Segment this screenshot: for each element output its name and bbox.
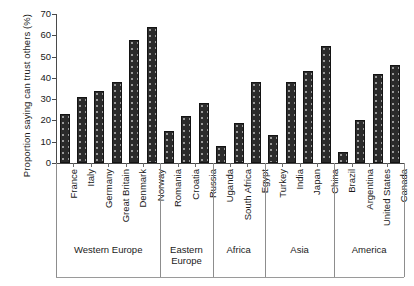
x-category-label: Great Britain — [121, 169, 131, 222]
x-tick-mark — [91, 163, 92, 167]
x-tick-mark — [126, 163, 127, 167]
group-separator — [404, 163, 405, 277]
x-category-label: Denmark — [138, 169, 148, 208]
x-tick-mark — [387, 163, 388, 167]
group-label: Africa — [213, 244, 265, 255]
group-label: Eastern Europe — [160, 244, 212, 266]
group-separator — [56, 163, 57, 277]
group-baseline — [56, 277, 404, 278]
group-separator — [265, 163, 266, 277]
x-category-label: United States — [382, 169, 392, 226]
x-tick-mark — [317, 163, 318, 167]
x-tick-mark — [247, 163, 248, 167]
x-category-label: Turkey — [278, 169, 288, 198]
x-tick-mark — [300, 163, 301, 167]
x-category-label: France — [69, 169, 79, 199]
x-tick-mark — [73, 163, 74, 167]
group-label: America — [334, 244, 404, 255]
x-tick-mark — [282, 163, 283, 167]
group-separator — [334, 163, 335, 277]
x-tick-mark — [108, 163, 109, 167]
x-tick-mark — [369, 163, 370, 167]
x-tick-mark — [230, 163, 231, 167]
x-category-label: Japan — [312, 169, 322, 195]
x-category-label: Germany — [104, 169, 114, 208]
x-category-label: Brazil — [347, 169, 357, 193]
x-category-label: India — [295, 169, 305, 190]
group-label: Asia — [265, 244, 335, 255]
x-tick-mark — [143, 163, 144, 167]
x-category-label: Uganda — [225, 169, 235, 202]
x-tick-mark — [178, 163, 179, 167]
x-category-label: Italy — [86, 169, 96, 186]
group-separator — [213, 163, 214, 277]
x-category-label: Argentina — [365, 169, 375, 210]
x-category-label: South Africa — [243, 169, 253, 220]
bar-chart-figure: Proportion saying can trust others (%) 0… — [0, 0, 414, 286]
x-category-label: Croatia — [191, 169, 201, 200]
x-tick-mark — [352, 163, 353, 167]
x-category-label: Romania — [173, 169, 183, 207]
group-label: Western Europe — [56, 244, 160, 255]
x-tick-mark — [195, 163, 196, 167]
